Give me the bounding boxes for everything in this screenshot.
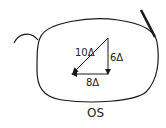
- lens-outline: [37, 19, 158, 102]
- horizontal-label: 8Δ: [86, 77, 99, 88]
- bridge-curve: [14, 34, 38, 43]
- resultant-label: 10Δ: [75, 47, 95, 58]
- eye-label: OS: [87, 106, 104, 120]
- lens-diagram: 10Δ 6Δ 8Δ OS: [0, 0, 166, 128]
- temple-arm: [141, 10, 155, 37]
- vertical-label: 6Δ: [110, 52, 123, 63]
